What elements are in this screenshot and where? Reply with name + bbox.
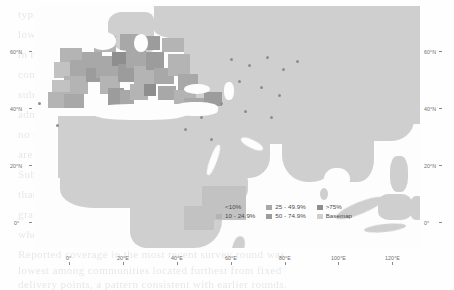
data-region — [184, 206, 214, 230]
data-region — [64, 94, 84, 108]
data-point — [210, 138, 213, 141]
legend-item-basemap[interactable]: Basemap — [317, 213, 356, 219]
landmass-sulawesi — [410, 196, 420, 220]
ghost-line: lowest among communities located furthes… — [18, 264, 440, 276]
legend-label: Basemap — [326, 213, 353, 219]
axis-tick-lat-right — [439, 165, 442, 166]
axis-tick-lon — [392, 262, 393, 265]
legend-swatch — [216, 214, 222, 219]
data-point — [278, 94, 281, 97]
axis-label-lat-left: 20°N — [10, 163, 22, 169]
ghost-line: delivery points, a pattern consistent wi… — [18, 278, 440, 290]
axis-tick-lat-right — [439, 222, 442, 223]
axis-label-lon: 60°E — [225, 255, 237, 261]
sea-mediterranean-east — [174, 102, 218, 116]
legend-swatch — [216, 205, 222, 210]
axis-tick-lat-left — [29, 222, 32, 223]
axis-tick-lon — [231, 262, 232, 265]
data-point — [38, 102, 41, 105]
axis-label-lon: 40°E — [171, 255, 183, 261]
data-region — [162, 38, 184, 52]
axis-label-lon: 100°E — [331, 255, 346, 261]
legend-item-50-74[interactable]: 50 - 74.9% — [266, 213, 309, 219]
legend-swatch — [266, 214, 272, 219]
axis-label-lat-right: 20°N — [424, 163, 436, 169]
axis-tick-lon — [69, 262, 70, 265]
figure-root: typical of the populations with the lowe… — [0, 0, 454, 290]
axis-label-lat-right: 40°N — [424, 106, 436, 112]
axis-label-lat-left: 60°N — [10, 49, 22, 55]
axis-label-lat-right: 0° — [424, 220, 429, 226]
data-point — [220, 102, 223, 105]
axis-tick-lat-left — [29, 108, 32, 109]
legend-label: 50 - 74.9% — [275, 213, 305, 219]
axis-tick-lat-right — [439, 51, 442, 52]
axis-tick-lon — [123, 262, 124, 265]
data-point — [282, 68, 285, 71]
data-point — [244, 110, 247, 113]
data-point — [296, 60, 299, 63]
data-region — [168, 54, 190, 76]
data-point — [248, 64, 251, 67]
sea-baltic — [134, 34, 148, 52]
axis-tick-lon — [177, 262, 178, 265]
map-legend: <10% 25 - 49.9% >75% 10 - 24.9% 50 - 74.… — [216, 204, 356, 219]
data-point — [238, 80, 241, 83]
axis-label-lat-left: 40°N — [10, 106, 22, 112]
axis-tick-lat-right — [439, 108, 442, 109]
data-point — [56, 124, 59, 127]
sea-north — [90, 32, 116, 50]
data-point — [266, 56, 269, 59]
axis-label-lon: 0° — [66, 255, 71, 261]
landmass-borneo — [378, 194, 412, 220]
sea-bay-of-bengal — [324, 168, 350, 192]
legend-label: <10% — [225, 204, 241, 210]
data-point — [270, 116, 273, 119]
legend-swatch — [317, 214, 323, 219]
legend-swatch — [317, 205, 323, 210]
axis-label-lat-right: 60°N — [424, 49, 436, 55]
data-point — [184, 128, 187, 131]
legend-label: 10 - 24.9% — [225, 213, 255, 219]
legend-item-10-24[interactable]: 10 - 24.9% — [216, 213, 259, 219]
axis-tick-lat-left — [29, 51, 32, 52]
data-point — [260, 86, 263, 89]
legend-label: 25 - 49.9% — [275, 204, 305, 210]
axis-label-lon: 120°E — [385, 255, 400, 261]
landmass-philippines — [390, 156, 408, 192]
legend-item-25-49[interactable]: 25 - 49.9% — [266, 204, 309, 210]
data-point — [200, 116, 203, 119]
landmass-siberia-north — [154, 6, 274, 40]
legend-swatch — [266, 205, 272, 210]
data-point — [230, 58, 233, 61]
legend-item-gt75[interactable]: >75% — [317, 204, 356, 210]
data-region — [144, 84, 156, 96]
axis-label-lon: 20°E — [117, 255, 129, 261]
axis-label-lat-left: 0° — [14, 220, 19, 226]
legend-item-lt10[interactable]: <10% — [216, 204, 259, 210]
axis-label-lon: 80°E — [279, 255, 291, 261]
sea-black — [184, 84, 210, 94]
landmass-sri-lanka — [320, 188, 328, 200]
axis-tick-lat-left — [29, 165, 32, 166]
axis-tick-lon — [285, 262, 286, 265]
axis-tick-lon — [338, 262, 339, 265]
legend-label: >75% — [326, 204, 342, 210]
sea-caspian — [224, 82, 234, 100]
